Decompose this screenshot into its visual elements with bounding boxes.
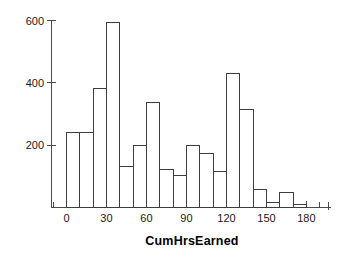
histogram-bar [240,109,253,207]
histogram-bar [106,23,119,208]
histogram-bar [146,102,159,207]
x-tick-label: 180 [297,212,315,224]
histogram-bar [253,189,266,207]
x-tick-label: 0 [63,212,69,224]
histogram-bar [213,172,226,208]
histogram-bar [67,133,80,208]
histogram-figure: 200400600 0306090120150180 CumHrsEarned [0,0,357,260]
bars-group [67,23,307,208]
histogram-bar [120,166,133,207]
histogram-bar [200,154,213,208]
histogram-bar [80,133,93,208]
histogram-bar [280,193,293,208]
histogram-bar [160,169,173,207]
x-tick-label: 90 [180,212,192,224]
histogram-bar [173,175,186,207]
x-tick-label: 60 [140,212,152,224]
x-tick-label: 30 [100,212,112,224]
histogram-bar [226,73,239,207]
y-tick-label: 400 [26,77,44,89]
x-tick-label: 120 [217,212,235,224]
histogram-bar [186,145,199,207]
histogram-bar [93,88,106,207]
x-axis-title: CumHrsEarned [145,234,238,248]
histogram-plot: 200400600 0306090120150180 CumHrsEarned [0,0,357,260]
y-tick-label: 200 [26,139,44,151]
histogram-bar [266,203,279,208]
y-tick-label: 600 [26,15,44,27]
histogram-bar [293,204,306,207]
x-tick-label: 150 [257,212,275,224]
histogram-bar [133,146,146,208]
